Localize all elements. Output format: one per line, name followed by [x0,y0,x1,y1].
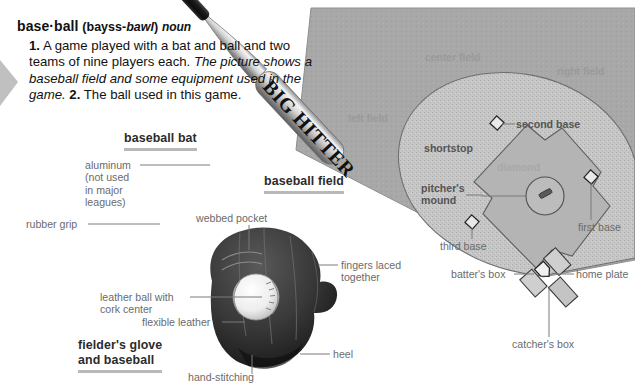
caption-underline [78,370,162,373]
illustrated-dictionary-page: BIG HITTER [0,0,635,392]
caption-fielders-glove-line2: and baseball [78,353,162,368]
label-leather-ball: leather ball with cork center [100,291,174,316]
label-flexible-leather: flexible leather [142,316,210,328]
sense-2-text: The ball used in this game. [84,87,242,102]
label-fingers-laced: fingers laced together [341,259,401,284]
headword: base·ball [17,18,79,34]
label-left-field: left field [348,113,388,125]
left-margin-wedge [0,60,18,106]
caption-underline [124,148,197,151]
sense-1-number: 1. [29,38,40,53]
caption-baseball-field: baseball field [264,174,344,194]
label-second-base: second base [516,118,580,130]
label-hand-stitching: hand-stitching [188,371,254,383]
caption-underline [264,191,344,194]
label-home-plate: home plate [576,268,628,280]
catchers-box [548,277,577,307]
label-shortstop: shortstop [424,142,473,154]
label-aluminum: aluminum (not used in major leagues) [85,159,131,209]
label-aluminum-line1: aluminum [85,159,131,171]
label-third-base: third base [440,240,487,252]
caption-fielders-glove-line1: fielder's glove [78,338,162,353]
label-rubber-grip: rubber grip [26,218,77,230]
headword-line: base·ball (bayss-bawl) noun [17,18,322,36]
label-leather-ball-line1: leather ball with [100,291,174,303]
part-of-speech: noun [162,20,191,34]
caption-baseball-bat-label: baseball bat [124,131,197,146]
label-right-field: right field [557,66,604,78]
label-fingers-laced-line1: fingers laced [341,259,401,271]
label-center-field: center field [425,52,480,64]
caption-baseball-bat: baseball bat [124,131,197,151]
pronunciation-open: (bayss- [82,20,126,34]
label-heel: heel [333,348,353,360]
label-catchers-box: catcher's box [512,338,574,350]
label-aluminum-line4: leagues) [85,196,131,208]
label-first-base: first base [578,221,621,233]
label-fingers-laced-line2: together [341,271,401,283]
label-diamond: diamond [497,162,540,174]
label-pitchers-mound-line2: mound [421,194,465,206]
label-aluminum-line3: in major [85,184,131,196]
label-leather-ball-line2: cork center [100,303,174,315]
pronunciation-close: ) [154,20,158,34]
label-pitchers-mound: pitcher's mound [421,182,465,207]
fielders-glove-illustration [210,228,337,369]
pronunciation-italic: bawl [126,20,154,34]
caption-baseball-field-label: baseball field [264,174,344,189]
label-aluminum-line2: (not used [85,171,131,183]
label-batters-box: batter's box [451,268,505,280]
caption-fielders-glove: fielder's glove and baseball [78,338,162,373]
sense-2-number: 2. [69,87,80,102]
sense-1: 1. A game played with a bat and ball and… [29,38,322,104]
label-pitchers-mound-line1: pitcher's [421,182,465,194]
dictionary-entry: base·ball (bayss-bawl) noun 1. A game pl… [17,18,322,104]
label-webbed-pocket: webbed pocket [196,212,267,224]
